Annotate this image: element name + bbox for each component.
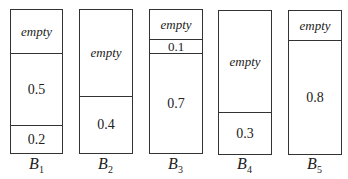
bin-3-empty-segment: empty — [150, 10, 202, 39]
bin-1: empty 0.5 0.2 — [10, 9, 63, 154]
bin-5-item-0.8: 0.8 — [289, 40, 341, 154]
bin-4: empty 0.3 — [218, 10, 272, 155]
bin-4-empty-segment: empty — [219, 11, 271, 112]
bin-2-item-0.4: 0.4 — [80, 96, 132, 153]
bin-3-label: B3 — [149, 155, 202, 175]
bin-4-item-0.3: 0.3 — [219, 112, 271, 154]
bin-5-empty-segment: empty — [289, 11, 341, 40]
bin-3-item-0.7: 0.7 — [150, 53, 202, 153]
bin-4-label: B4 — [218, 155, 271, 175]
bin-1-item-0.2: 0.2 — [11, 125, 62, 153]
bin-1-item-0.5: 0.5 — [11, 53, 62, 125]
bin-3: empty 0.1 0.7 — [149, 9, 203, 154]
bin-3-item-0.1: 0.1 — [150, 39, 202, 53]
bin-1-label: B1 — [10, 155, 63, 175]
bin-2-empty-segment: empty — [80, 10, 132, 96]
bin-2: empty 0.4 — [79, 9, 133, 154]
bin-5: empty 0.8 — [288, 10, 342, 155]
bin-5-label: B5 — [288, 155, 341, 175]
bin-1-empty-segment: empty — [11, 10, 62, 53]
bin-2-label: B2 — [79, 155, 132, 175]
